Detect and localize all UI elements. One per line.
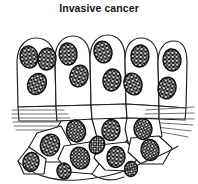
epithelial-cell [126,104,159,119]
figure-title: Invasive cancer [0,1,198,15]
invasive-cancer-illustration [0,14,198,184]
figure-invasive-cancer: Invasive cancer [0,0,198,184]
epithelial-cell [56,105,92,121]
epithelial-cell [18,106,57,121]
